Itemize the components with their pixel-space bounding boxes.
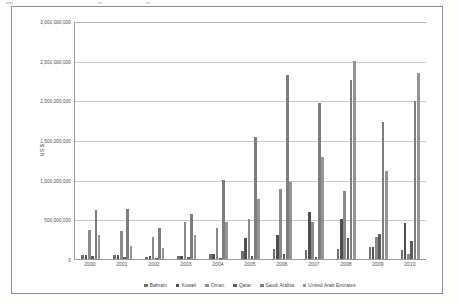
y-axis-tick-label: 1,000,000,000 — [40, 178, 71, 183]
bar — [244, 238, 247, 259]
bar — [180, 256, 183, 259]
bar — [81, 255, 84, 259]
x-axis-label-2010: 2010 — [394, 262, 426, 267]
legend-item-bahrain[interactable]: Bahrain — [144, 283, 167, 288]
bar — [417, 73, 420, 259]
bar — [248, 219, 251, 259]
bar — [254, 137, 257, 259]
bar-group-2010 — [400, 22, 420, 259]
x-axis-labels: 2000200120022003200420052006200720082009… — [74, 262, 426, 267]
y-axis-tick-label: 2,000,000,000 — [40, 99, 71, 104]
bar — [95, 210, 98, 259]
bar — [177, 256, 180, 259]
bar — [378, 234, 381, 259]
y-axis-tick-label: 500,000,000 — [44, 218, 71, 223]
bar — [286, 75, 289, 259]
scan-artifact — [146, 2, 150, 4]
bar — [410, 241, 413, 259]
y-axis-title: US $ — [39, 144, 45, 156]
bar-group-2002 — [145, 22, 165, 259]
bar — [123, 257, 126, 259]
chart-page: US $ 3,000,000,0002,500,000,0002,000,000… — [0, 0, 459, 305]
legend-item-oman[interactable]: Oman — [205, 283, 224, 288]
legend-swatch-icon — [144, 284, 147, 287]
bar — [401, 250, 404, 259]
bar — [311, 222, 314, 259]
bar — [305, 250, 308, 259]
bar — [241, 251, 244, 259]
bar-group-2007 — [304, 22, 324, 259]
scan-artifact — [98, 2, 102, 4]
legend-label: Oman — [211, 283, 224, 288]
bar — [117, 255, 120, 259]
bar — [219, 258, 222, 259]
bar — [353, 61, 356, 259]
bar — [225, 222, 228, 259]
bar — [375, 237, 378, 259]
bar-group-2001 — [113, 22, 133, 259]
bar — [257, 199, 260, 259]
bar — [283, 254, 286, 259]
y-axis-tick-label: 2,500,000,000 — [40, 59, 71, 64]
x-axis-label-2007: 2007 — [298, 262, 330, 267]
legend-item-qatar[interactable]: Qatar — [233, 283, 251, 288]
bar-group-2004 — [209, 22, 229, 259]
bar — [98, 235, 101, 259]
legend-label: Saudi Arabia — [266, 283, 294, 288]
bar — [385, 171, 388, 259]
bar — [321, 157, 324, 259]
bar — [273, 249, 276, 259]
bar — [113, 255, 116, 259]
x-axis-label-2002: 2002 — [138, 262, 170, 267]
legend-item-united-arab-emirates[interactable]: United Arab Emirates — [303, 283, 356, 288]
legend-swatch-icon — [233, 284, 236, 287]
bar — [347, 238, 350, 259]
bar — [130, 246, 133, 259]
x-axis-label-2008: 2008 — [330, 262, 362, 267]
bar — [158, 228, 161, 259]
bar — [91, 256, 94, 259]
bar — [187, 257, 190, 259]
bar — [318, 103, 321, 259]
x-axis-label-2005: 2005 — [234, 262, 266, 267]
bar — [85, 255, 88, 259]
legend-label: Kuwait — [181, 283, 196, 288]
bar — [343, 191, 346, 259]
legend-item-saudi-arabia[interactable]: Saudi Arabia — [260, 283, 294, 288]
legend-label: Qatar — [239, 283, 252, 288]
bar — [289, 182, 292, 259]
y-axis-tick-label: 1,500,000,000 — [40, 139, 71, 144]
chart-legend: BahrainKuwaitOmanQatarSaudi ArabiaUnited… — [74, 283, 426, 288]
x-axis-label-2006: 2006 — [266, 262, 298, 267]
bar — [340, 219, 343, 259]
legend-label: United Arab Emirates — [308, 283, 355, 288]
bar — [251, 256, 254, 259]
bar — [162, 248, 165, 259]
bar — [145, 257, 148, 259]
bar — [149, 256, 152, 259]
legend-swatch-icon — [260, 284, 263, 287]
x-axis-label-2001: 2001 — [106, 262, 138, 267]
bar — [126, 209, 129, 259]
bar-group-2000 — [81, 22, 101, 259]
bar-group-2006 — [273, 22, 293, 259]
bar — [212, 254, 215, 259]
scan-artifact — [6, 2, 13, 4]
bar — [88, 230, 91, 259]
legend-item-kuwait[interactable]: Kuwait — [176, 283, 196, 288]
y-axis-tick-label: 3,000,000,000 — [40, 20, 71, 25]
bar-group-2009 — [368, 22, 388, 259]
bar — [216, 228, 219, 259]
bar-group-2008 — [336, 22, 356, 259]
bar — [279, 189, 282, 259]
bar — [190, 214, 193, 259]
bar-group-2005 — [241, 22, 261, 259]
bar — [315, 257, 318, 259]
bar — [369, 247, 372, 259]
bar — [308, 212, 311, 259]
bar — [372, 247, 375, 259]
bar-groups — [75, 22, 426, 259]
bar — [382, 122, 385, 259]
bar — [414, 101, 417, 259]
x-axis-label-2000: 2000 — [74, 262, 106, 267]
